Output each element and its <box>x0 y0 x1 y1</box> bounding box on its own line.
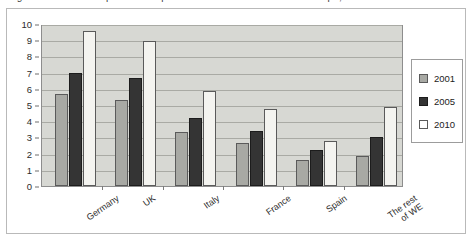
y-tick-label: 7 <box>27 69 32 79</box>
bar[interactable] <box>189 118 202 186</box>
bar[interactable] <box>296 160 309 186</box>
bar-group <box>223 26 283 186</box>
y-tick-mark <box>35 170 39 171</box>
y-axis: 012345678910 <box>7 25 39 187</box>
x-axis: GermanyUKItalyFranceSpainThe restof WE <box>41 189 403 235</box>
legend-item-2001[interactable]: 2001 <box>419 67 462 90</box>
y-tick-mark <box>35 154 39 155</box>
x-tick-label: Germany <box>85 193 121 223</box>
y-tick-mark <box>35 89 39 90</box>
bar-group <box>102 26 162 186</box>
y-tick-label: 5 <box>27 101 32 111</box>
bar[interactable] <box>310 150 323 186</box>
figure-frame: 012345678910 GermanyUKItalyFranceSpainTh… <box>6 8 466 234</box>
bar[interactable] <box>324 141 337 186</box>
y-tick-label: 0 <box>27 182 32 192</box>
legend-label-2005: 2005 <box>434 97 455 107</box>
y-tick-mark <box>35 138 39 139</box>
y-tick-label: 9 <box>27 36 32 46</box>
x-tick-label: Spain <box>324 193 349 215</box>
x-tick-label: UK <box>141 193 157 209</box>
legend-swatch-2001-icon <box>419 74 428 83</box>
x-tick-label: Italy <box>202 193 221 211</box>
y-tick-mark <box>35 187 39 188</box>
y-tick-label: 1 <box>27 166 32 176</box>
y-tick-mark <box>35 73 39 74</box>
bar[interactable] <box>69 73 82 186</box>
bar[interactable] <box>370 137 383 186</box>
bar[interactable] <box>264 109 277 186</box>
bar[interactable] <box>175 132 188 186</box>
y-tick-label: 8 <box>27 53 32 63</box>
legend-swatch-2010-icon <box>419 120 428 129</box>
bar[interactable] <box>143 41 156 186</box>
y-tick-mark <box>35 57 39 58</box>
legend-label-2010: 2010 <box>434 120 455 130</box>
plot-area <box>41 25 403 187</box>
figure-caption-strip: Figure 1. Broadband penetration per 100 … <box>0 0 476 6</box>
bar[interactable] <box>55 94 68 186</box>
legend-swatch-2005-icon <box>419 97 428 106</box>
chart-legend: 2001 2005 2010 <box>411 59 463 143</box>
y-tick-label: 3 <box>27 134 32 144</box>
bar[interactable] <box>83 31 96 186</box>
bar[interactable] <box>250 131 263 186</box>
bar[interactable] <box>356 156 369 186</box>
bar-group <box>344 26 404 186</box>
y-tick-mark <box>35 106 39 107</box>
y-tick-mark <box>35 122 39 123</box>
figure-caption-text: Figure 1. Broadband penetration per 100 … <box>8 0 395 2</box>
bar[interactable] <box>236 143 249 186</box>
x-tick-label: France <box>264 193 293 218</box>
legend-item-2010[interactable]: 2010 <box>419 113 462 136</box>
bar-group <box>163 26 223 186</box>
x-tick-label: The restof WE <box>386 193 425 229</box>
y-tick-label: 2 <box>27 150 32 160</box>
bar[interactable] <box>115 100 128 186</box>
y-tick-label: 10 <box>21 20 32 30</box>
bar-group <box>42 26 102 186</box>
bar[interactable] <box>129 78 142 186</box>
bar[interactable] <box>203 91 216 186</box>
legend-item-2005[interactable]: 2005 <box>419 90 462 113</box>
bar[interactable] <box>384 107 397 186</box>
y-tick-mark <box>35 41 39 42</box>
y-tick-mark <box>35 25 39 26</box>
bar-group <box>283 26 343 186</box>
y-tick-label: 6 <box>27 85 32 95</box>
legend-label-2001: 2001 <box>434 74 455 84</box>
y-tick-label: 4 <box>27 117 32 127</box>
